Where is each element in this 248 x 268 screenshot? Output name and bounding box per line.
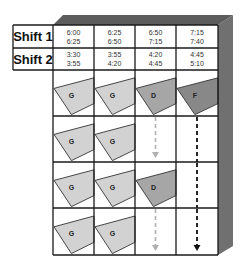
start-time: 6:00 [67, 28, 81, 37]
end-time: 6:25 [67, 37, 81, 46]
start-time: 4:20 [149, 50, 163, 59]
time-slot-cell: 3:554:20 [94, 48, 135, 70]
time-slot-cell: 6:507:15 [135, 25, 176, 48]
time-slot-cell: 6:256:50 [94, 25, 135, 48]
shape-label: G [110, 92, 116, 99]
time-slot-cell: 4:455:10 [176, 48, 218, 70]
shape-label: G [69, 230, 75, 237]
start-time: 3:30 [67, 50, 81, 59]
end-time: 6:50 [108, 37, 122, 46]
start-time: 7:15 [190, 28, 204, 37]
start-time: 6:25 [108, 28, 122, 37]
shift-label: Shift 2 [13, 48, 53, 70]
shape-label: G [69, 184, 75, 191]
start-time: 3:55 [108, 50, 122, 59]
end-time: 3:55 [67, 59, 81, 68]
shape-label: G [69, 92, 75, 99]
end-time: 7:15 [149, 37, 163, 46]
shift-label: Shift 1 [13, 25, 53, 48]
shape-label: G [110, 230, 116, 237]
side-shadow [218, 15, 233, 255]
shape-label: G [110, 138, 116, 145]
time-slot-cell: 4:204:45 [135, 48, 176, 70]
time-slot-cell: 6:006:25 [53, 25, 94, 48]
start-time: 4:45 [190, 50, 204, 59]
top-shadow [53, 15, 233, 25]
time-slot-cell: 7:157:40 [176, 25, 218, 48]
time-slot-cell: 3:303:55 [53, 48, 94, 70]
end-time: 4:45 [149, 59, 163, 68]
end-time: 5:10 [190, 59, 204, 68]
end-time: 4:20 [108, 59, 122, 68]
end-time: 7:40 [190, 37, 204, 46]
shift-schedule-diagram: GGDFGGGGDGG Shift 16:006:256:256:506:507… [0, 0, 248, 268]
shape-label: D [151, 184, 156, 191]
shape-label: G [110, 184, 116, 191]
shape-label: G [69, 138, 75, 145]
start-time: 6:50 [149, 28, 163, 37]
shape-label: D [151, 92, 156, 99]
shape-label: F [193, 92, 198, 99]
